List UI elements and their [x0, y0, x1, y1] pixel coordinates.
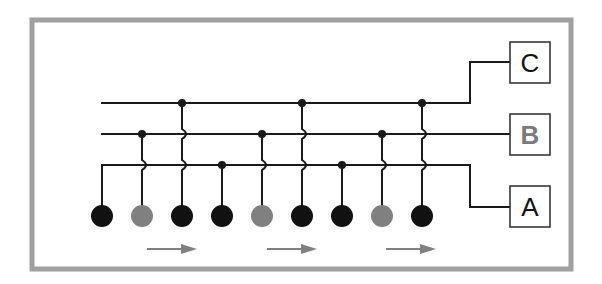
direction-arrows: [147, 244, 436, 254]
box-c: C: [510, 42, 550, 83]
node-3-black: [171, 205, 193, 227]
node-1-black: [91, 205, 113, 227]
node-7-black: [331, 205, 353, 227]
junction-dot: [338, 161, 346, 169]
output-boxes: CBA: [510, 42, 550, 227]
junction-dot: [298, 99, 306, 107]
node-4-black: [211, 205, 233, 227]
node-5-gray: [251, 205, 273, 227]
arrow-right-icon: [147, 244, 197, 254]
bus-diagram: CBA: [0, 0, 602, 284]
drop-wire-5: [262, 134, 266, 216]
nodes: [91, 205, 433, 227]
junction-dot: [138, 130, 146, 138]
box-label: B: [521, 120, 540, 150]
drop-wire-3: [182, 103, 186, 216]
junction-dot: [258, 130, 266, 138]
bus-line-a: [101, 165, 510, 207]
node-8-gray: [371, 205, 393, 227]
junction-dot: [178, 99, 186, 107]
node-drop-wires: [102, 103, 426, 216]
junction-dot: [218, 161, 226, 169]
bus-line-c: [101, 62, 510, 103]
box-b: B: [510, 114, 550, 155]
box-a: A: [510, 186, 550, 227]
junction-dot: [378, 130, 386, 138]
junction-dot: [418, 99, 426, 107]
drop-wire-9: [422, 103, 426, 216]
drop-wire-2: [142, 134, 146, 216]
box-label: C: [521, 48, 540, 78]
arrow-right-icon: [267, 244, 317, 254]
node-2-gray: [131, 205, 153, 227]
box-label: A: [521, 192, 539, 222]
drop-wire-8: [382, 134, 386, 216]
node-9-black: [411, 205, 433, 227]
node-6-black: [291, 205, 313, 227]
drop-wire-6: [302, 103, 306, 216]
arrow-right-icon: [386, 244, 436, 254]
